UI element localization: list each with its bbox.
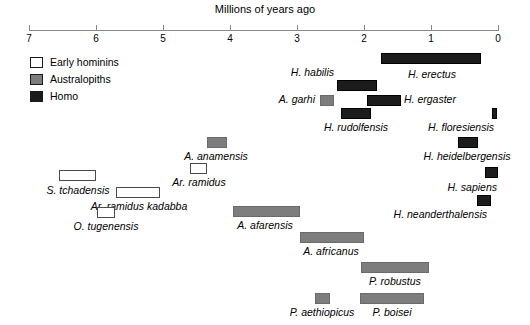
- taxon-label-h-sapiens: H. sapiens: [447, 181, 497, 193]
- legend: Early hominins Australopiths Homo: [30, 55, 119, 106]
- taxon-label-a-garhi: A. garhi: [279, 93, 315, 105]
- taxon-label-h-floresiensis: H. floresiensis: [428, 121, 494, 133]
- taxon-bar-h-sapiens: [485, 167, 498, 178]
- taxon-bar-p-robustus: [361, 262, 429, 273]
- axis-tick-5: [163, 25, 164, 31]
- taxon-label-s-tchadensis: S. tchadensis: [46, 184, 109, 196]
- taxon-bar-h-habilis: [337, 80, 377, 91]
- taxon-bar-a-garhi: [320, 95, 333, 106]
- taxon-label-h-heidelbergensis: H. heidelbergensis: [424, 150, 511, 162]
- axis-tick-label-0: 0: [488, 33, 508, 44]
- taxon-bar-o-tugenensis: [97, 207, 114, 218]
- legend-swatch-australopiths: [30, 74, 43, 85]
- taxon-label-a-afarensis: A. afarensis: [237, 219, 292, 231]
- taxon-bar-a-anamensis: [207, 137, 227, 148]
- taxon-bar-h-floresiensis: [492, 108, 497, 119]
- axis-tick-2: [364, 25, 365, 31]
- axis-title: Millions of years ago: [0, 3, 530, 15]
- hominin-timeline-chart: Millions of years ago 76543210 Early hom…: [0, 0, 530, 325]
- taxon-bar-p-boisei: [360, 293, 424, 304]
- taxon-label-o-tugenensis: O. tugenensis: [74, 220, 139, 232]
- axis-tick-6: [96, 25, 97, 31]
- taxon-label-h-habilis: H. habilis: [291, 66, 334, 78]
- axis-tick-1: [431, 25, 432, 31]
- axis-tick-label-1: 1: [421, 33, 441, 44]
- axis-tick-label-2: 2: [354, 33, 374, 44]
- axis-tick-0: [498, 25, 499, 31]
- time-axis-line: [29, 30, 498, 31]
- legend-label-homo: Homo: [50, 91, 78, 102]
- legend-label-australopiths: Australopiths: [50, 74, 111, 85]
- axis-tick-3: [297, 25, 298, 31]
- legend-swatch-early-hominins: [30, 57, 43, 68]
- taxon-bar-s-tchadensis: [59, 170, 96, 181]
- legend-item-early-hominins: Early hominins: [30, 55, 119, 70]
- taxon-label-a-anamensis: A. anamensis: [184, 150, 248, 162]
- axis-tick-label-3: 3: [287, 33, 307, 44]
- taxon-bar-h-ergaster: [367, 95, 401, 106]
- taxon-bar-p-aethiopicus: [315, 293, 330, 304]
- legend-item-australopiths: Australopiths: [30, 72, 119, 87]
- taxon-label-h-erectus: H. erectus: [408, 68, 456, 80]
- taxon-label-p-aethiopicus: P. aethiopicus: [290, 306, 355, 318]
- taxon-bar-a-africanus: [300, 232, 364, 243]
- taxon-label-p-robustus: P. robustus: [369, 275, 421, 287]
- axis-tick-label-7: 7: [19, 33, 39, 44]
- legend-item-homo: Homo: [30, 89, 119, 104]
- axis-tick-7: [29, 25, 30, 31]
- taxon-label-p-boisei: P. boisei: [373, 306, 412, 318]
- axis-tick-label-6: 6: [86, 33, 106, 44]
- taxon-bar-ar-ramidus: [190, 163, 207, 174]
- taxon-bar-ar-ramidus-kadabba: [116, 187, 160, 198]
- axis-tick-label-5: 5: [153, 33, 173, 44]
- taxon-bar-h-heidelbergensis: [458, 137, 478, 148]
- taxon-label-h-neanderthalensis: H. neanderthalensis: [394, 208, 487, 220]
- legend-label-early-hominins: Early hominins: [50, 57, 119, 68]
- taxon-label-h-rudolfensis: H. rudolfensis: [324, 121, 388, 133]
- taxon-label-ar-ramidus: Ar. ramidus: [172, 176, 225, 188]
- axis-tick-4: [230, 25, 231, 31]
- taxon-label-a-africanus: A. africanus: [303, 245, 358, 257]
- taxon-bar-h-rudolfensis: [341, 108, 371, 119]
- taxon-bar-h-erectus: [381, 53, 482, 64]
- legend-swatch-homo: [30, 91, 43, 102]
- taxon-bar-h-neanderthalensis: [477, 195, 491, 206]
- axis-tick-label-4: 4: [220, 33, 240, 44]
- taxon-label-h-ergaster: H. ergaster: [404, 93, 456, 105]
- taxon-bar-a-afarensis: [233, 206, 300, 217]
